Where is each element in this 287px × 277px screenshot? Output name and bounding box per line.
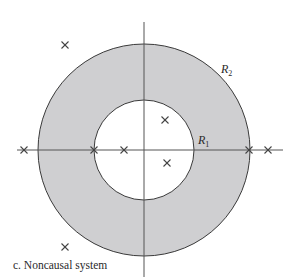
label-r1: R1 (198, 133, 209, 149)
z-plane-plot (0, 0, 287, 277)
pole-zero-diagram: R2 R1 c. Noncausal system (0, 0, 287, 277)
label-r2-subscript: 2 (228, 69, 232, 78)
figure-caption: c. Noncausal system (13, 259, 107, 271)
label-r1-subscript: 1 (205, 140, 209, 149)
pole-x-icon (62, 244, 69, 251)
label-r2: R2 (221, 62, 232, 78)
pole-x-icon (62, 42, 69, 49)
